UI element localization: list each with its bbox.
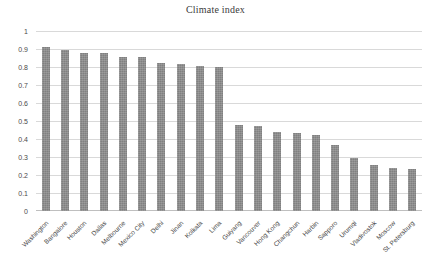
y-axis-tick-label: 0 [24, 208, 28, 215]
bar-slot [152, 31, 171, 211]
y-axis-tick-label: 0.2 [18, 172, 28, 179]
x-axis-slot: Sapporo [325, 213, 344, 275]
bar-slot [113, 31, 132, 211]
chart-title: Climate index [0, 4, 431, 15]
x-axis-slot: Delhi [152, 213, 171, 275]
bar[interactable] [61, 50, 69, 211]
bar[interactable] [42, 47, 50, 211]
x-axis-slot: Kolkata [190, 213, 209, 275]
bar-slot [325, 31, 344, 211]
plot-area [36, 31, 422, 211]
x-axis-slot: Harbin [306, 213, 325, 275]
x-axis-slot: Changchun [287, 213, 306, 275]
x-axis-tick-label-text: Lima [208, 219, 223, 234]
x-axis-slot: Bangalore [55, 213, 74, 275]
bar-series [36, 31, 422, 211]
bar[interactable] [370, 165, 378, 211]
y-axis-tick-label: 1 [24, 28, 28, 35]
bar[interactable] [80, 53, 88, 211]
x-axis-slot: St. Petersburg [403, 213, 422, 275]
bar-slot [364, 31, 383, 211]
y-axis-tick-label: 0.5 [18, 118, 28, 125]
bar-slot [306, 31, 325, 211]
y-axis-tick-label: 0.7 [18, 82, 28, 89]
bar[interactable] [215, 67, 223, 211]
bar-slot [287, 31, 306, 211]
bar[interactable] [100, 53, 108, 211]
bar[interactable] [235, 125, 243, 211]
bar-slot [36, 31, 55, 211]
bar-slot [190, 31, 209, 211]
x-axis-slot: Mexico City [132, 213, 151, 275]
x-axis-slot: Houston [75, 213, 94, 275]
bar-slot [229, 31, 248, 211]
y-axis-tick-label: 0.8 [18, 64, 28, 71]
bar-slot [94, 31, 113, 211]
bar-slot [132, 31, 151, 211]
x-axis-tick-label-text: Delhi [150, 219, 165, 234]
bar[interactable] [196, 66, 204, 211]
y-axis-tick-label: 0.6 [18, 100, 28, 107]
y-axis-tick-label: 0.9 [18, 46, 28, 53]
bar[interactable] [254, 126, 262, 211]
x-axis-slot: Vladivostok [364, 213, 383, 275]
bar-slot [345, 31, 364, 211]
x-axis: WashingtonBangaloreHoustonDallasMelbourn… [36, 213, 422, 275]
x-axis-tick-label-text: Jinan [168, 219, 184, 235]
bar[interactable] [119, 57, 127, 211]
x-axis-slot: Lima [210, 213, 229, 275]
bar[interactable] [157, 63, 165, 211]
y-axis-tick-label: 0.1 [18, 190, 28, 197]
y-axis-tick-label: 0.4 [18, 136, 28, 143]
y-axis-tick-label: 0.3 [18, 154, 28, 161]
bar-slot [171, 31, 190, 211]
bar-slot [75, 31, 94, 211]
x-axis-tick-label-text: Washington [20, 219, 49, 248]
bar[interactable] [331, 145, 339, 211]
bar-slot [383, 31, 402, 211]
y-axis: 10.90.80.70.60.50.40.30.20.10 [0, 31, 32, 211]
bar[interactable] [138, 57, 146, 211]
bar-slot [210, 31, 229, 211]
bar-slot [55, 31, 74, 211]
x-axis-slot: Jinan [171, 213, 190, 275]
bar-slot [268, 31, 287, 211]
climate-index-chart: Climate index 10.90.80.70.60.50.40.30.20… [0, 0, 431, 276]
bar-slot [403, 31, 422, 211]
bar-slot [248, 31, 267, 211]
bar[interactable] [177, 64, 185, 211]
